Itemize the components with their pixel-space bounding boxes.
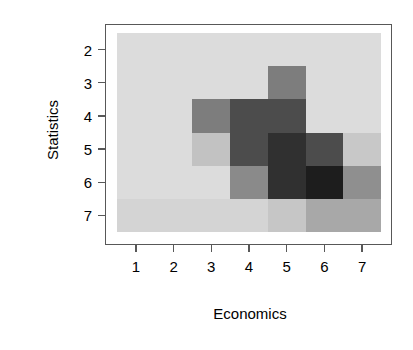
x-axis-tick — [324, 245, 325, 252]
heatmap-cell — [192, 66, 230, 100]
y-axis-tick-label: 4 — [70, 109, 92, 124]
y-axis-tick — [98, 82, 105, 83]
heatmap-cell — [343, 166, 381, 200]
heatmap-cell — [268, 166, 306, 200]
heatmap-cell — [117, 33, 155, 67]
y-axis-tick-label: 3 — [70, 76, 92, 91]
y-axis-tick — [98, 182, 105, 183]
x-axis-tick-label: 5 — [274, 259, 300, 274]
heatmap-cell — [192, 99, 230, 133]
heatmap-cell — [306, 33, 344, 67]
heatmap-cell — [192, 133, 230, 167]
heatmap-cell — [230, 133, 268, 167]
heatmap-cell — [117, 66, 155, 100]
heatmap-cell — [117, 199, 155, 232]
heatmap-cell — [306, 99, 344, 133]
heatmap-cell — [192, 166, 230, 200]
y-axis-tick-label: 7 — [70, 208, 92, 223]
x-axis-tick-label: 2 — [161, 259, 187, 274]
y-axis-tick-label: 6 — [70, 175, 92, 190]
heatmap-cell — [230, 199, 268, 232]
x-axis-tick — [211, 245, 212, 252]
y-axis-title: Statistics — [40, 5, 66, 255]
y-axis-tick — [98, 49, 105, 50]
heatmap-cell — [343, 199, 381, 232]
heatmap-cell — [155, 133, 193, 167]
heatmap-cell — [268, 99, 306, 133]
heatmap-cell — [117, 166, 155, 200]
heatmap-figure: Statistics 1234567234567 Economics — [0, 0, 413, 350]
heatmap-cell — [306, 166, 344, 200]
heatmap-raster — [117, 33, 381, 232]
heatmap-cell — [155, 99, 193, 133]
heatmap-cell — [268, 66, 306, 100]
x-axis-tick-label: 7 — [349, 259, 375, 274]
y-axis-tick — [98, 115, 105, 116]
heatmap-cell — [343, 33, 381, 67]
x-axis-title: Economics — [105, 305, 395, 322]
x-axis-tick-label: 4 — [236, 259, 262, 274]
heatmap-cell — [343, 133, 381, 167]
heatmap-cell — [268, 33, 306, 67]
heatmap-cell — [268, 133, 306, 167]
x-axis-tick — [173, 245, 174, 252]
heatmap-cell — [306, 133, 344, 167]
heatmap-cell — [230, 33, 268, 67]
heatmap-cell — [306, 199, 344, 232]
x-axis-tick-label: 1 — [123, 259, 149, 274]
x-axis-tick — [361, 245, 362, 252]
heatmap-cell — [230, 99, 268, 133]
heatmap-cell — [343, 99, 381, 133]
heatmap-cell — [230, 66, 268, 100]
heatmap-cell — [155, 166, 193, 200]
heatmap-cell — [155, 66, 193, 100]
heatmap-cell — [155, 33, 193, 67]
heatmap-cell — [306, 66, 344, 100]
heatmap-cell — [155, 199, 193, 232]
heatmap-cell — [343, 66, 381, 100]
y-axis-tick-label: 5 — [70, 142, 92, 157]
x-axis-tick-label: 3 — [198, 259, 224, 274]
x-axis-tick-label: 6 — [311, 259, 337, 274]
heatmap-cell — [268, 199, 306, 232]
heatmap-cell — [192, 199, 230, 232]
heatmap-cell — [117, 99, 155, 133]
y-axis-tick-label: 2 — [70, 43, 92, 58]
heatmap-cell — [192, 33, 230, 67]
x-axis-tick — [248, 245, 249, 252]
y-axis-tick — [98, 148, 105, 149]
x-axis-tick — [135, 245, 136, 252]
heatmap-cell — [230, 166, 268, 200]
heatmap-cell — [117, 133, 155, 167]
y-axis-tick — [98, 215, 105, 216]
x-axis-tick — [286, 245, 287, 252]
